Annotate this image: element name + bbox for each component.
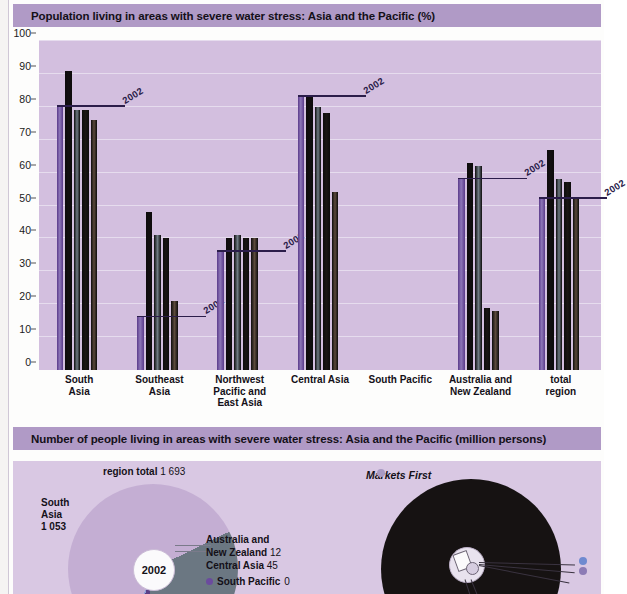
- pie-label-south-asia-line2: Asia: [41, 509, 69, 521]
- y-axis-tick-dash: [31, 65, 36, 66]
- bar-0: [458, 179, 465, 370]
- bar-3: [243, 238, 250, 370]
- bar-group-5: [458, 41, 499, 370]
- pie-chart-title: Number of people living in areas with se…: [13, 433, 546, 445]
- x-axis-label-line: region: [521, 386, 601, 398]
- x-axis-label-line: East Asia: [200, 397, 280, 409]
- pie-label-south-asia-line1: South: [41, 497, 69, 509]
- baseline-2002-5: [458, 178, 527, 180]
- pie-right-dot-purple: [579, 567, 587, 575]
- x-axis-label-2: NorthwestPacific andEast Asia: [200, 374, 280, 409]
- bar-1: [547, 150, 554, 370]
- y-axis-tick-80: 80: [19, 93, 31, 105]
- bar-4: [91, 120, 98, 370]
- pie-label-south-asia: South Asia 1 053: [41, 497, 69, 533]
- region-total-value: 1 693: [160, 466, 185, 477]
- y-axis-tick-90: 90: [19, 60, 31, 72]
- y-axis-tick-20: 20: [19, 290, 31, 302]
- x-axis-label-line: Australia and: [440, 374, 520, 386]
- baseline-2002-3: [298, 95, 367, 97]
- y-axis-tick-30: 30: [19, 257, 31, 269]
- bar-4: [332, 192, 339, 370]
- baseline-2002-0: [57, 105, 126, 107]
- panel-1-header: Population living in areas with severe w…: [13, 4, 601, 28]
- x-axis-label-5: Australia andNew Zealand: [440, 374, 520, 397]
- baseline-2002-1: [137, 316, 206, 318]
- y-axis-tick-dash: [31, 296, 36, 297]
- x-axis-label-6: totalregion: [521, 374, 601, 397]
- bar-3: [82, 110, 89, 370]
- pie-label-south-pacific: South Pacific 0: [206, 576, 290, 587]
- bar-group-3: [298, 41, 339, 370]
- baseline-2002-6: [539, 197, 608, 199]
- y-axis-tick-dash: [31, 197, 36, 198]
- pie-label-south-pacific-value: 0: [284, 576, 290, 587]
- x-axis-label-0: SouthAsia: [39, 374, 119, 397]
- bar-2: [154, 235, 161, 370]
- pie-right-dot-blue: [579, 557, 587, 565]
- pie-label-aus-line2: New Zealand 12: [206, 546, 281, 559]
- y-axis-tick-dash: [31, 230, 36, 231]
- bar-4: [171, 301, 178, 370]
- pie-label-aus-value: 12: [270, 547, 281, 558]
- x-axis-labels: SouthAsiaSoutheastAsiaNorthwestPacific a…: [39, 374, 601, 420]
- bar-chart-plot-area: 200220022002200220022002: [39, 41, 601, 370]
- hub-shape-2-icon: [466, 562, 479, 575]
- bar-4: [251, 238, 258, 370]
- bar-4: [573, 199, 580, 370]
- y-axis-tick-dash: [31, 164, 36, 165]
- region-total-text: region total: [103, 466, 157, 477]
- pie-label-central-asia: Central Asia 45: [206, 559, 281, 572]
- x-axis-label-line: New Zealand: [440, 386, 520, 398]
- x-axis-label-line: Southeast: [119, 374, 199, 386]
- legend-dot-icon: [206, 578, 213, 585]
- y-axis-tick-dash: [31, 263, 36, 264]
- x-axis-label-line: Pacific and: [200, 386, 280, 398]
- bar-group-6: [539, 41, 580, 370]
- region-total-label: region total 1 693: [103, 466, 185, 477]
- bar-group-0: [57, 41, 98, 370]
- bar-1: [65, 71, 72, 370]
- bar-group-2: [217, 41, 258, 370]
- y-axis-tick-dash: [31, 329, 36, 330]
- baseline-2002-2: [217, 250, 286, 252]
- bar-1: [467, 163, 474, 370]
- annotation-2002-6: 2002: [602, 177, 627, 198]
- bar-3: [564, 182, 571, 370]
- pie-label-south-asia-value: 1 053: [41, 521, 69, 533]
- bar-chart-title-band: Population living in areas with severe w…: [13, 4, 601, 27]
- bar-0: [137, 317, 144, 370]
- bar-2: [475, 166, 482, 370]
- x-axis-label-line: South: [39, 374, 119, 386]
- bar-2: [74, 110, 81, 370]
- x-axis-label-1: SoutheastAsia: [119, 374, 199, 397]
- bar-chart-title: Population living in areas with severe w…: [13, 10, 435, 22]
- pie-center-label: 2002: [133, 549, 175, 591]
- pie-label-central-asia-text: Central Asia: [206, 560, 264, 571]
- bar-3: [484, 308, 491, 371]
- pie-label-aus-line2-text: New Zealand: [206, 547, 267, 558]
- bar-3: [163, 238, 170, 370]
- y-axis-tick-50: 50: [19, 192, 31, 204]
- x-axis-label-3: Central Asia: [280, 374, 360, 386]
- x-axis-label-4: South Pacific: [360, 374, 440, 386]
- bar-2: [315, 107, 322, 370]
- bar-1: [146, 212, 153, 370]
- bar-1: [306, 97, 313, 370]
- bar-4: [492, 311, 499, 370]
- x-axis-label-line: Asia: [39, 386, 119, 398]
- bar-3: [323, 113, 330, 370]
- bar-group-4: [378, 41, 419, 370]
- x-axis-label-line: Asia: [119, 386, 199, 398]
- y-axis-tick-dash: [31, 131, 36, 132]
- pie-right-dot-top: [377, 469, 385, 477]
- pie-chart-panel: region total 1 693 2002 South Asia 1 053…: [13, 461, 601, 594]
- y-axis-labels: 0102030405060708090100: [0, 33, 36, 378]
- y-axis-tick-40: 40: [19, 224, 31, 236]
- y-axis-tick-100: 100: [13, 27, 31, 39]
- pie-label-australia-nz: Australia and New Zealand 12 Central Asi…: [206, 533, 281, 572]
- bar-group-1: [137, 41, 178, 370]
- x-axis-label-line: Northwest: [200, 374, 280, 386]
- pie-label-central-asia-value: 45: [267, 560, 278, 571]
